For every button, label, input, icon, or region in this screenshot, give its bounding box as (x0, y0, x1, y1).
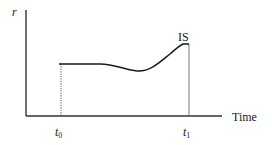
diagram-canvas: r IS Time t0 t1 (0, 0, 272, 145)
t1-label: t1 (183, 126, 190, 140)
is-curve-label: IS (178, 31, 189, 43)
t0-label: t0 (55, 126, 62, 140)
y-axis-label: r (12, 6, 17, 18)
r-curve (59, 44, 189, 71)
x-axis-label: Time (232, 111, 257, 123)
t1-label-sub: 1 (186, 131, 190, 140)
t0-label-sub: 0 (58, 131, 62, 140)
